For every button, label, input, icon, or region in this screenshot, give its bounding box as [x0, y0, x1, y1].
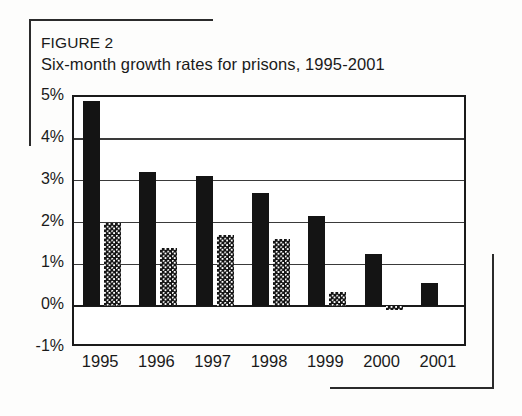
x-tick-label: 1996: [138, 352, 175, 371]
plot-area: [72, 95, 466, 346]
figure-title-block: FIGURE 2 Six-month growth rates for pris…: [41, 33, 461, 76]
y-tick-label: 1%: [41, 253, 64, 271]
y-tick-label: 4%: [41, 128, 64, 146]
bar-1999-first-half: [308, 216, 325, 306]
y-axis-labels: 5%4%3%2%1%0%-1%: [0, 95, 70, 346]
figure-label: FIGURE 2: [41, 33, 461, 53]
x-axis-labels: 1995199619971998199920002001: [72, 352, 466, 382]
y-tick-label: -1%: [36, 337, 64, 355]
bars-layer: [74, 97, 464, 344]
bar-1998-first-half: [252, 193, 269, 306]
figure-caption: Six-month growth rates for prisons, 1995…: [41, 53, 461, 76]
bar-1996-second-half: [160, 248, 177, 307]
bar-1996-first-half: [139, 172, 156, 306]
bar-1995-first-half: [83, 101, 100, 306]
x-tick-label: 1995: [82, 352, 119, 371]
y-tick-label: 2%: [41, 212, 64, 230]
decorative-frame-top: [29, 19, 213, 21]
x-tick-label: 1998: [251, 352, 288, 371]
bar-1997-first-half: [196, 176, 213, 306]
bar-1997-second-half: [217, 235, 234, 306]
figure-container: FIGURE 2 Six-month growth rates for pris…: [0, 0, 522, 416]
y-tick-label: 3%: [41, 170, 64, 188]
decorative-frame-right: [492, 254, 494, 389]
x-tick-label: 1999: [307, 352, 344, 371]
bar-2000-first-half: [365, 254, 382, 306]
decorative-frame-bottom: [330, 387, 494, 389]
bar-1995-second-half: [104, 223, 121, 307]
y-tick-label: 0%: [41, 295, 64, 313]
bar-2001-first-half: [421, 283, 438, 306]
x-tick-label: 1997: [194, 352, 231, 371]
y-tick-label: 5%: [41, 86, 64, 104]
x-tick-label: 2000: [363, 352, 400, 371]
bar-1998-second-half: [273, 239, 290, 306]
bar-2000-second-half: [386, 306, 403, 310]
bar-1999-second-half: [329, 292, 346, 307]
x-tick-label: 2001: [419, 352, 456, 371]
